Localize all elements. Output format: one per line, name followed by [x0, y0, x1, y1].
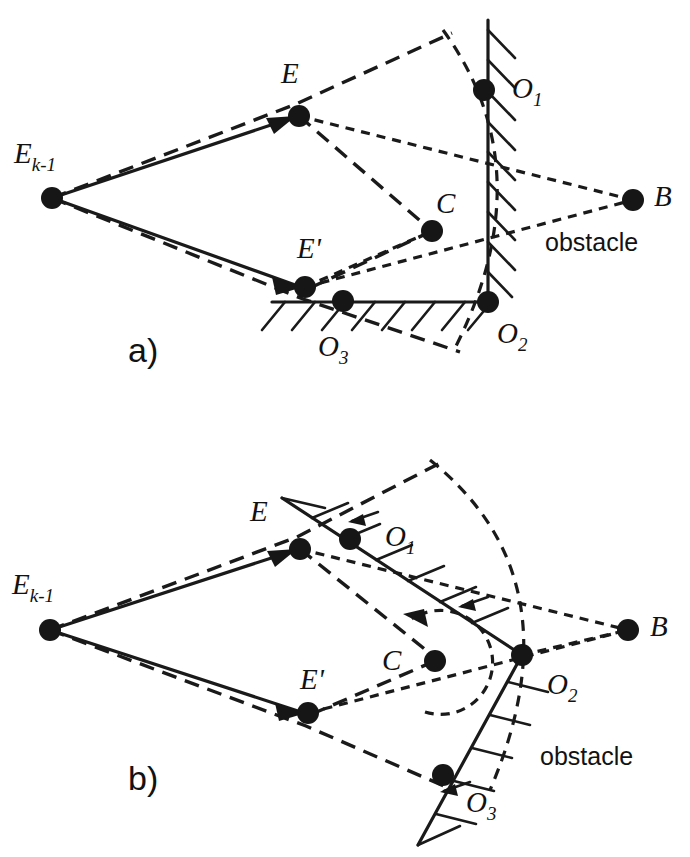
- label-E-k-1-b: Ek-1: [11, 568, 54, 606]
- label-O1-a: O1: [512, 72, 542, 110]
- label-O3-a: O3: [318, 330, 348, 368]
- label-C-a: C: [436, 187, 456, 219]
- path-arrow-to-E-b: [50, 551, 293, 630]
- envelope-upper-b: [50, 463, 440, 630]
- label-E-prime-a: E': [296, 232, 322, 264]
- label-E-prime-b: E': [299, 663, 325, 695]
- panel-a: Ek-1 E E' C O1 O2 O3 B obstacle a): [13, 20, 672, 369]
- rotation-arrowhead-b: [403, 609, 428, 627]
- node-O1-b: [339, 528, 361, 550]
- path-arrow-to-Eprime-a: [52, 198, 298, 286]
- node-O3-a: [332, 290, 354, 312]
- label-E-b: E: [249, 495, 268, 527]
- label-obstacle-b: obstacle: [540, 742, 633, 770]
- label-O2-a: O2: [497, 317, 528, 355]
- envelope-upper-a: [52, 33, 452, 198]
- sightline-Eprime-to-C-a: [305, 231, 432, 287]
- node-E-prime-a: [294, 276, 316, 298]
- label-panel-a: a): [128, 331, 158, 369]
- node-E-b: [289, 538, 311, 560]
- label-O1-b: O1: [385, 520, 415, 558]
- node-C-b: [424, 650, 446, 672]
- label-O2-b: O2: [547, 668, 578, 706]
- node-C-a: [421, 220, 443, 242]
- label-C-b: C: [382, 644, 402, 676]
- label-B-a: B: [654, 180, 672, 212]
- node-B-a: [622, 189, 644, 211]
- sightline-O2-to-B-b: [522, 630, 628, 655]
- label-panel-b: b): [128, 759, 158, 797]
- panel-b: Ek-1 E E' C O1 O2 O3 B obstacle b): [11, 460, 668, 845]
- obstacle-hatching-horizontal-a: [262, 302, 488, 330]
- label-B-b: B: [650, 610, 668, 642]
- node-E-a: [288, 105, 310, 127]
- sightline-Eprime-to-B-b: [308, 630, 628, 713]
- node-B-b: [617, 619, 639, 641]
- node-O2-b: [511, 644, 533, 666]
- label-E-k-1-a: Ek-1: [13, 137, 56, 175]
- figure-diagram: Ek-1 E E' C O1 O2 O3 B obstacle a): [0, 0, 690, 857]
- node-E-k-1-b: [39, 619, 61, 641]
- sightline-E-to-B-a: [299, 116, 633, 200]
- node-E-k-1-a: [41, 187, 63, 209]
- label-obstacle-a: obstacle: [545, 228, 638, 256]
- node-O1-a: [473, 79, 495, 101]
- node-E-prime-b: [297, 702, 319, 724]
- path-arrow-to-E-a: [52, 118, 292, 198]
- obstacle-hatching-upper-b: [312, 503, 508, 623]
- path-arrow-to-Eprime-b: [50, 630, 301, 712]
- label-E-a: E: [280, 57, 299, 89]
- node-O3-b: [432, 764, 454, 786]
- node-O2-a: [477, 291, 499, 313]
